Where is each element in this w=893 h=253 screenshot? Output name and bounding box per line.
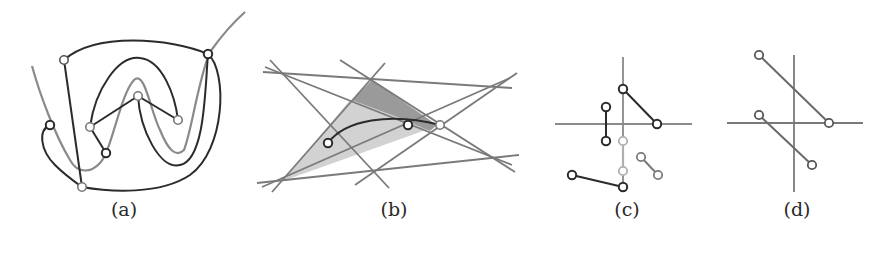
node <box>204 50 212 58</box>
node <box>654 171 662 179</box>
caption-b: (b) <box>381 198 408 220</box>
node <box>619 167 627 175</box>
node <box>60 56 68 64</box>
panel-b <box>257 60 519 192</box>
panel-d <box>727 51 863 192</box>
panel-a <box>32 12 245 191</box>
outer-loop-curve <box>64 41 220 191</box>
node <box>102 149 110 157</box>
node <box>602 103 610 111</box>
node <box>755 111 763 119</box>
node <box>324 139 332 147</box>
inner-deep-loop <box>138 54 208 165</box>
caption-a: (a) <box>111 198 137 220</box>
node <box>134 92 142 100</box>
node <box>825 119 833 127</box>
node <box>755 51 763 59</box>
node <box>404 121 412 129</box>
node <box>86 123 94 131</box>
left-loop-curve <box>42 125 82 187</box>
node <box>637 153 645 161</box>
node <box>568 171 576 179</box>
node <box>619 85 627 93</box>
node <box>653 120 661 128</box>
panel-c <box>555 57 692 191</box>
caption-d: (d) <box>784 198 811 220</box>
inner-arch-curve <box>90 58 178 127</box>
node <box>436 121 444 129</box>
left-chord <box>64 60 82 187</box>
segment-peak-right <box>138 96 178 120</box>
node <box>619 137 627 145</box>
line <box>263 72 512 88</box>
node <box>602 137 610 145</box>
node <box>78 183 86 191</box>
segment <box>623 89 657 124</box>
line <box>265 67 512 165</box>
segment <box>572 175 623 187</box>
node <box>46 121 54 129</box>
caption-c: (c) <box>614 198 639 220</box>
node <box>619 183 627 191</box>
node <box>174 116 182 124</box>
node <box>808 161 816 169</box>
